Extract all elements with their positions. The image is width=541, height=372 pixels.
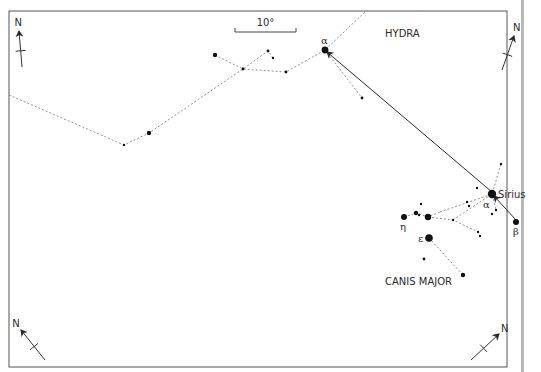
- compass-north-label: N: [501, 323, 508, 334]
- cma-epsilon-label: ε: [418, 233, 423, 244]
- star-cma-beta: [513, 219, 519, 225]
- star-cma-epsilon: [425, 234, 433, 242]
- star-c4: [491, 213, 493, 215]
- hydra-label: HYDRA: [385, 28, 420, 39]
- star-c14: [423, 258, 426, 261]
- star-c5: [466, 201, 468, 203]
- star-cma-eta: [401, 214, 407, 220]
- star-c7: [425, 214, 431, 220]
- star-c6: [468, 205, 470, 207]
- star-h6: [147, 131, 151, 135]
- star-chart: NNNN 10° HYDRA CANIS MAJOR α Sirius α β …: [0, 0, 541, 372]
- hydra-alpha-label: α: [321, 35, 328, 46]
- star-c2: [476, 187, 478, 189]
- compass-north-label: N: [12, 318, 19, 329]
- star-c12: [477, 231, 479, 233]
- star-c3: [495, 209, 497, 211]
- star-c10: [418, 214, 420, 216]
- side-strip: [521, 0, 524, 372]
- star-h3: [267, 50, 270, 53]
- star-c13: [479, 235, 481, 237]
- canis-major-label: CANIS MAJOR: [385, 276, 452, 287]
- star-c1: [500, 163, 502, 165]
- star-c9: [420, 203, 422, 205]
- cma-beta-label: β: [513, 226, 519, 237]
- star-sirius: [488, 190, 496, 198]
- star-c15: [461, 273, 465, 277]
- star-h8: [361, 97, 364, 100]
- star-c11: [452, 219, 454, 221]
- star-h2: [242, 68, 245, 71]
- star-h7: [123, 144, 125, 146]
- compass-north-label: N: [513, 22, 520, 33]
- scale-bar-label: 10°: [257, 17, 275, 28]
- cma-alpha-label: α: [483, 199, 490, 210]
- star-h4: [272, 57, 274, 59]
- star-h5: [285, 71, 288, 74]
- star-hydra-alpha: [322, 47, 329, 54]
- star-c8: [414, 211, 418, 215]
- star-h1: [213, 53, 217, 57]
- cma-eta-label: η: [400, 221, 406, 232]
- compass-north-label: N: [15, 17, 22, 28]
- chart-frame: [9, 11, 507, 367]
- sirius-label: Sirius: [498, 189, 526, 200]
